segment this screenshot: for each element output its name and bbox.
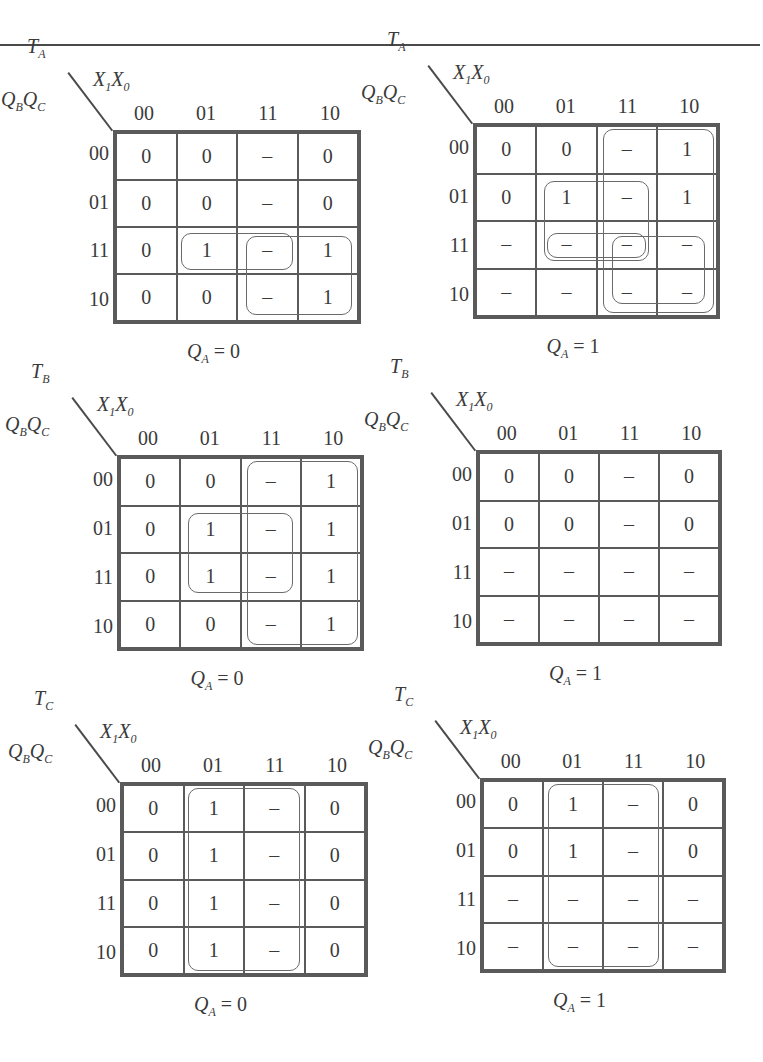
kmap-cell: 1	[657, 174, 717, 222]
function-subscript: B	[401, 367, 408, 381]
caption-equals: = 1	[575, 989, 606, 1011]
column-header: 11	[603, 750, 665, 773]
kmap-cell: –	[483, 876, 543, 923]
kmap-cell: 0	[120, 458, 180, 506]
column-header: 11	[596, 95, 658, 118]
row-header: 10	[73, 615, 113, 638]
column-header: 10	[302, 427, 364, 450]
kmap-cell: 1	[180, 506, 240, 554]
function-subscript: C	[405, 695, 413, 709]
kmap-cell: –	[659, 596, 719, 644]
kmap-cell: 0	[123, 880, 184, 927]
function-subscript: A	[398, 40, 405, 54]
kmap-cell: 0	[305, 927, 366, 974]
kmap-cell: 0	[120, 506, 180, 554]
kmap-cell: 0	[663, 828, 723, 875]
kmap-cell: 0	[120, 601, 180, 649]
caption-equals: = 1	[571, 662, 602, 684]
kmap-caption: QA = 1	[549, 662, 602, 689]
kmap-caption: QA = 1	[547, 335, 600, 362]
kmap-cell: 1	[301, 601, 361, 649]
kmap-cell: 0	[180, 601, 240, 649]
caption-subscript: A	[563, 674, 570, 688]
column-header: 10	[299, 102, 361, 125]
kmap-cell: –	[241, 506, 301, 554]
kmap-cell: 1	[543, 828, 603, 875]
column-header: 01	[182, 754, 244, 777]
row-header: 01	[429, 185, 469, 208]
kmap-cell: 0	[116, 274, 177, 321]
row-header: 01	[76, 843, 116, 866]
caption-equals: = 0	[212, 667, 243, 689]
caption-equals: = 1	[568, 335, 599, 357]
kmap-cell: 1	[184, 880, 245, 927]
column-header: 00	[113, 102, 175, 125]
column-header: 00	[117, 427, 179, 450]
kmap-caption: QA = 0	[194, 993, 247, 1020]
kmap-cell: –	[663, 923, 723, 970]
kmap-grid: 00–000–001–100–1	[113, 130, 361, 324]
kmap-cell: –	[659, 548, 719, 596]
kmap-cell: –	[476, 221, 536, 269]
column-header: 11	[244, 754, 306, 777]
column-variable-label: X1X0	[93, 68, 129, 95]
caption-variable: Q	[553, 989, 567, 1011]
kmap-cell: 1	[536, 174, 596, 222]
kmap-cell: 0	[483, 828, 543, 875]
function-name: T	[394, 683, 405, 705]
kmap-cell: 0	[177, 274, 238, 321]
kmap-cell: 0	[123, 785, 184, 832]
row-header: 10	[432, 610, 472, 633]
row-variable-label: QBQC	[8, 740, 52, 767]
column-header: 10	[660, 422, 722, 445]
row-header: 11	[429, 234, 469, 257]
kmap-cell: 1	[301, 458, 361, 506]
kmap-cell: 0	[305, 880, 366, 927]
function-name: T	[31, 360, 42, 382]
kmap-cell: 0	[539, 453, 599, 501]
kmap-cell: –	[244, 927, 305, 974]
row-header: 01	[69, 191, 109, 214]
kmap-grid: 00–101–1––––––––	[473, 123, 720, 319]
kmap-cell: 0	[479, 501, 539, 549]
kmap-cell: 1	[180, 553, 240, 601]
column-header: 10	[306, 754, 368, 777]
kmap-cell: 1	[301, 553, 361, 601]
kmap-cell: –	[599, 453, 659, 501]
column-header: 11	[237, 102, 299, 125]
row-header: 11	[69, 239, 109, 262]
row-header: 01	[432, 512, 472, 535]
column-variable-label: X1X0	[456, 388, 492, 415]
column-header: 11	[599, 422, 661, 445]
kmap-grid: 01–001–0––––––––	[480, 778, 726, 973]
column-header: 00	[476, 422, 538, 445]
row-variable-label: QBQC	[5, 413, 49, 440]
caption-variable: Q	[187, 340, 201, 362]
kmap-cell: 1	[657, 126, 717, 174]
kmap-caption: QA = 0	[191, 667, 244, 694]
kmap-cell: 0	[298, 180, 359, 227]
kmap-cell: –	[476, 269, 536, 317]
top-rule	[0, 44, 760, 46]
kmap-cell: 0	[116, 180, 177, 227]
kmap-cell: 1	[543, 781, 603, 828]
function-subscript: A	[38, 47, 45, 61]
row-variable-label: QBQC	[1, 88, 45, 115]
kmap-cell: –	[603, 923, 663, 970]
kmap-grid: 00–000–0––––––––	[476, 450, 722, 646]
kmap-cell: –	[599, 548, 659, 596]
column-header: 01	[179, 427, 241, 450]
caption-subscript: A	[208, 1005, 215, 1019]
column-header: 00	[120, 754, 182, 777]
caption-variable: Q	[191, 667, 205, 689]
row-header: 11	[432, 561, 472, 584]
column-header: 00	[480, 750, 542, 773]
caption-equals: = 0	[209, 340, 240, 362]
kmap-cell: –	[237, 133, 298, 180]
column-variable-label: X1X0	[97, 393, 133, 420]
caption-variable: Q	[547, 335, 561, 357]
function-name: T	[390, 355, 401, 377]
kmap-cell: –	[483, 923, 543, 970]
column-variable-label: X1X0	[100, 720, 136, 747]
kmap-cell: –	[479, 548, 539, 596]
